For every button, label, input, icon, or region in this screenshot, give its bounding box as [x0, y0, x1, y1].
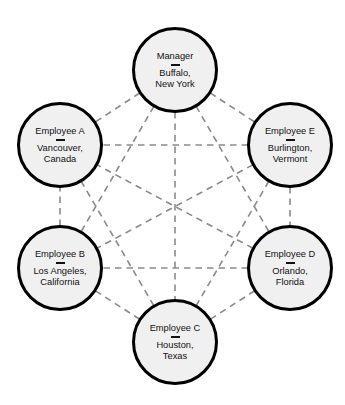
node-title: Manager [157, 51, 194, 61]
node-employee-b[interactable]: Employee BLos Angeles, California [17, 225, 103, 311]
node-employee-a[interactable]: Employee AVancouver, Canada [17, 102, 103, 188]
node-separator-dash [171, 64, 180, 66]
node-location: Los Angeles, California [33, 266, 86, 287]
node-title: Employee E [265, 126, 315, 136]
node-location: Burlington, Vermont [268, 143, 312, 164]
node-separator-dash [171, 336, 180, 338]
node-title: Employee B [35, 249, 85, 259]
node-title: Employee A [35, 126, 85, 136]
node-location: Vancouver, Canada [37, 143, 83, 164]
mesh-network-diagram: ManagerBuffalo, New YorkEmployee EBurlin… [0, 0, 345, 405]
node-employee-c[interactable]: Employee CHouston, Texas [132, 299, 218, 385]
node-location: Orlando, Florida [272, 266, 308, 287]
node-location: Buffalo, New York [155, 68, 194, 89]
node-separator-dash [286, 262, 295, 264]
node-employee-e[interactable]: Employee EBurlington, Vermont [247, 102, 333, 188]
node-layer: ManagerBuffalo, New YorkEmployee EBurlin… [0, 0, 345, 405]
node-title: Employee C [150, 323, 201, 333]
node-manager[interactable]: ManagerBuffalo, New York [132, 27, 218, 113]
node-employee-d[interactable]: Employee DOrlando, Florida [247, 225, 333, 311]
node-separator-dash [286, 139, 295, 141]
node-separator-dash [56, 262, 65, 264]
node-title: Employee D [265, 249, 316, 259]
node-separator-dash [56, 139, 65, 141]
node-location: Houston, Texas [156, 340, 193, 361]
